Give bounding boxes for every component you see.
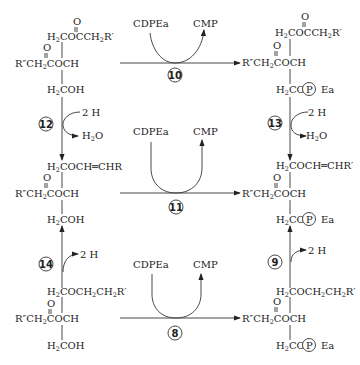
reagent-2h: 2 H bbox=[80, 249, 99, 260]
step-13-label: 13 bbox=[268, 118, 282, 129]
svg-text:H2COCCH2R′: H2COCCH2R′ bbox=[275, 27, 342, 40]
svg-text:R″CH2COCH: R″CH2COCH bbox=[242, 188, 306, 201]
step-12-label: 12 bbox=[39, 119, 53, 130]
reaction-11: CDPEa CMP 11 bbox=[120, 126, 240, 214]
svg-text:R″CH2COCH: R″CH2COCH bbox=[242, 57, 306, 70]
reaction-10: CDPEa CMP 10 bbox=[120, 18, 240, 82]
reagent-water: H2O bbox=[82, 130, 103, 143]
svg-text:Ea: Ea bbox=[321, 214, 334, 225]
step-14-label: 14 bbox=[39, 259, 53, 270]
chain-label: H2COCCH2R′ bbox=[47, 31, 114, 44]
compound-top-left: O H2COCCH2R′ O R″CH2COCH H2COH bbox=[15, 16, 114, 97]
compound-top-right: O H2COCCH2R′ O R″CH2COCH H2CO P Ea bbox=[242, 11, 342, 97]
svg-text:P: P bbox=[306, 84, 313, 95]
cofactor-arc-11 bbox=[151, 140, 202, 193]
svg-text:Ea: Ea bbox=[321, 340, 334, 351]
cofactor-arc-8 bbox=[152, 274, 201, 318]
reagent-2h: 2 H bbox=[308, 107, 327, 118]
svg-text:H2COH: H2COH bbox=[47, 214, 85, 227]
svg-text:H2CO: H2CO bbox=[276, 84, 305, 97]
step-9-label: 9 bbox=[272, 257, 279, 268]
product-cmp: CMP bbox=[193, 18, 218, 29]
carbonyl-o: O bbox=[43, 42, 51, 53]
svg-text:P: P bbox=[306, 340, 313, 351]
product-cmp: CMP bbox=[193, 259, 218, 270]
svg-text:H2COCH═CHR′: H2COCH═CHR′ bbox=[276, 160, 354, 173]
compound-bottom-left: H2COCH2CH2R′ O R″CH2COCH H2COH bbox=[15, 286, 127, 353]
cofactor-arc-10 bbox=[150, 30, 204, 63]
compound-bottom-right: H2COCH2CH2R′ O R″CH2COCH H2CO P Ea bbox=[242, 286, 356, 353]
side-arrow-12 bbox=[63, 112, 80, 136]
svg-text:P: P bbox=[306, 214, 313, 225]
lipid-biosynthesis-diagram: O H2COCCH2R′ O R″CH2COCH H2COH 2 H H2O 1… bbox=[0, 0, 360, 365]
svg-text:H2COCH═CHR: H2COCH═CHR bbox=[47, 161, 122, 174]
svg-text:Ea: Ea bbox=[321, 84, 334, 95]
svg-text:R″CH2COCH: R″CH2COCH bbox=[15, 313, 79, 326]
step-10-label: 10 bbox=[168, 70, 182, 81]
svg-text:H2COH: H2COH bbox=[47, 340, 85, 353]
svg-text:R″CH2COCH: R″CH2COCH bbox=[242, 313, 306, 326]
reagent-cdpea: CDPEa bbox=[133, 126, 169, 137]
chain-label: R″CH2COCH bbox=[15, 58, 79, 71]
svg-text:O: O bbox=[43, 172, 51, 183]
svg-text:O: O bbox=[273, 296, 281, 307]
svg-text:O: O bbox=[273, 40, 281, 51]
compound-middle-left: H2COCH═CHR O R″CH2COCH H2COH bbox=[15, 161, 122, 227]
svg-text:H2CO: H2CO bbox=[276, 340, 305, 353]
step-11-label: 11 bbox=[169, 202, 183, 213]
reaction-8: CDPEa CMP 8 bbox=[120, 259, 240, 340]
svg-text:O: O bbox=[301, 11, 309, 22]
reagent-water: H2O bbox=[306, 130, 327, 143]
svg-text:R″CH2COCH: R″CH2COCH bbox=[15, 188, 79, 201]
carbonyl-o: O bbox=[73, 16, 81, 27]
side-arrow-14 bbox=[63, 254, 78, 272]
side-arrow-9 bbox=[291, 250, 306, 262]
reagent-2h: 2 H bbox=[82, 107, 101, 118]
svg-text:H2CO: H2CO bbox=[276, 214, 305, 227]
reagent-cdpea: CDPEa bbox=[133, 259, 169, 270]
reagent-2h: 2 H bbox=[308, 245, 327, 256]
step-8-label: 8 bbox=[172, 328, 179, 339]
compound-middle-right: H2COCH═CHR′ O R″CH2COCH H2CO P Ea bbox=[242, 160, 354, 227]
chain-label: H2COH bbox=[47, 84, 85, 97]
svg-text:O: O bbox=[273, 172, 281, 183]
svg-text:H2COCH2CH2R′: H2COCH2CH2R′ bbox=[47, 286, 127, 299]
reagent-cdpea: CDPEa bbox=[133, 18, 169, 29]
svg-text:O: O bbox=[47, 298, 55, 309]
product-cmp: CMP bbox=[193, 126, 218, 137]
svg-text:H2COCH2CH2R′: H2COCH2CH2R′ bbox=[276, 286, 356, 299]
